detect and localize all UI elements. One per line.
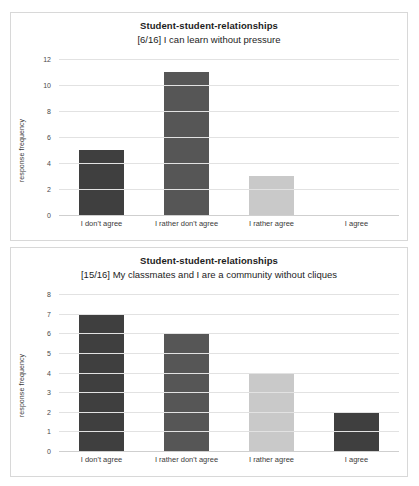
y-tick-label: 6	[47, 330, 51, 337]
chart-top-x-categories: I don't agreeI rather don't agreeI rathe…	[59, 219, 399, 235]
chart-top-title-block: Student-student-relationships [6/16] I c…	[11, 13, 407, 46]
chart-top-plot-area: response frequency 024681012 I don't agr…	[11, 59, 407, 241]
gridline	[59, 215, 399, 216]
chart-panel-top: Student-student-relationships [6/16] I c…	[10, 12, 408, 241]
gridline	[59, 59, 399, 60]
x-category-label: I rather agree	[249, 219, 294, 228]
gridline	[59, 85, 399, 86]
chart-top-title: Student-student-relationships	[11, 20, 407, 32]
y-tick-label: 7	[47, 310, 51, 317]
chart-top-subtitle: [6/16] I can learn without pressure	[11, 33, 407, 46]
gridline	[59, 353, 399, 354]
y-tick-label: 0	[47, 212, 51, 219]
bar	[249, 176, 293, 215]
chart-top-y-axis-label-text: response frequency	[19, 118, 26, 181]
gridline	[59, 111, 399, 112]
y-tick-label: 3	[47, 389, 51, 396]
chart-bottom-y-axis-label-text: response frequency	[19, 354, 26, 417]
chart-bottom-plot-area: response frequency 012345678 I don't agr…	[11, 294, 407, 477]
gridline	[59, 189, 399, 190]
bar	[79, 150, 123, 215]
chart-bottom-title: Student-student-relationships	[11, 255, 407, 267]
chart-top-plot	[59, 59, 399, 215]
charts-page: Student-student-relationships [6/16] I c…	[0, 0, 419, 486]
bar	[164, 72, 208, 215]
x-category-label: I don't agree	[81, 455, 122, 464]
chart-bottom-plot	[59, 294, 399, 451]
y-tick-label: 2	[47, 408, 51, 415]
gridline	[59, 431, 399, 432]
y-tick-label: 12	[43, 56, 51, 63]
gridline	[59, 314, 399, 315]
chart-bottom-y-ticks: 012345678	[29, 294, 55, 477]
gridline	[59, 137, 399, 138]
y-tick-label: 0	[47, 448, 51, 455]
gridline	[59, 373, 399, 374]
chart-bottom-x-categories: I don't agreeI rather don't agreeI rathe…	[59, 455, 399, 471]
chart-bottom-subtitle: [15/16] My classmates and I are a commun…	[11, 268, 407, 281]
chart-top-y-ticks: 024681012	[29, 59, 55, 241]
y-tick-label: 1	[47, 428, 51, 435]
gridline	[59, 451, 399, 452]
gridline	[59, 333, 399, 334]
gridline	[59, 412, 399, 413]
x-category-label: I agree	[345, 455, 368, 464]
y-tick-label: 5	[47, 349, 51, 356]
chart-bottom-title-block: Student-student-relationships [15/16] My…	[11, 248, 407, 281]
y-tick-label: 10	[43, 82, 51, 89]
y-tick-label: 2	[47, 186, 51, 193]
chart-panel-bottom: Student-student-relationships [15/16] My…	[10, 247, 408, 477]
y-tick-label: 4	[47, 160, 51, 167]
x-category-label: I don't agree	[81, 219, 122, 228]
y-tick-label: 8	[47, 108, 51, 115]
x-category-label: I rather don't agree	[155, 455, 218, 464]
x-category-label: I rather agree	[249, 455, 294, 464]
x-category-label: I agree	[345, 219, 368, 228]
gridline	[59, 392, 399, 393]
chart-bottom-y-axis-label: response frequency	[15, 294, 29, 477]
y-tick-label: 4	[47, 369, 51, 376]
gridline	[59, 163, 399, 164]
x-category-label: I rather don't agree	[155, 219, 218, 228]
gridline	[59, 294, 399, 295]
y-tick-label: 6	[47, 134, 51, 141]
y-tick-label: 8	[47, 291, 51, 298]
chart-top-y-axis-label: response frequency	[15, 59, 29, 241]
